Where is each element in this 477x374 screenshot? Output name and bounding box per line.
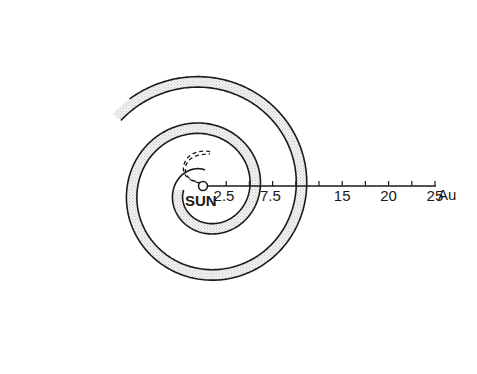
sun-label: SUN bbox=[185, 192, 217, 209]
shaded-band bbox=[113, 77, 307, 281]
axis-tick-label: 20 bbox=[380, 187, 397, 204]
axis-unit-label: Au bbox=[438, 186, 456, 203]
distance-axis: 2.57.5152025 Au bbox=[208, 181, 456, 204]
axis-tick-label: 15 bbox=[334, 187, 351, 204]
axis-tick-label: 7.5 bbox=[260, 187, 281, 204]
spiral-diagram: 2.57.5152025 Au SUN bbox=[0, 0, 477, 374]
axis-tick-label: 2.5 bbox=[214, 187, 235, 204]
sun-icon bbox=[199, 182, 208, 191]
